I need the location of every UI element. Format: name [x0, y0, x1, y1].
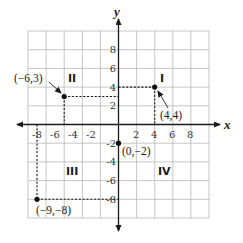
x-tick: 2: [133, 129, 139, 140]
y-tick: -4: [106, 156, 116, 167]
x-tick: -6: [50, 129, 60, 140]
quadrant-label-ii: II: [68, 72, 76, 85]
y-tick: 2: [110, 100, 116, 111]
y-tick: 4: [110, 82, 116, 93]
point-4-4: [152, 85, 157, 90]
x-tick: -8: [32, 129, 42, 140]
x-tick: 4: [151, 129, 157, 140]
x-axis-label: x: [223, 117, 231, 132]
coordinate-plane: x y -8 -6 -4 -2 2 4 6 8 8 6 4 2 -2 -4 -6…: [0, 0, 243, 243]
quadrant-label-i: I: [160, 72, 164, 85]
x-tick: 8: [187, 129, 193, 140]
point-label: (−6,3): [14, 72, 43, 85]
point-0-neg2: [116, 141, 121, 146]
x-tick: -4: [68, 129, 78, 140]
y-tick: -2: [106, 138, 116, 149]
y-axis-label: y: [112, 4, 120, 19]
point-label: (4,4): [160, 109, 182, 122]
x-tick: 6: [169, 129, 175, 140]
y-tick: -6: [106, 175, 116, 186]
y-tick: 6: [110, 63, 116, 74]
point-neg6-3: [62, 94, 67, 99]
quadrant-label-iv: IV: [158, 165, 171, 178]
point-label: (0,−2): [122, 145, 151, 158]
x-tick: -2: [86, 129, 96, 140]
point-neg9-neg8: [34, 197, 39, 202]
quadrant-label-iii: III: [66, 165, 78, 178]
point-label: (−9,−8): [36, 204, 71, 217]
y-tick: 8: [110, 44, 116, 55]
